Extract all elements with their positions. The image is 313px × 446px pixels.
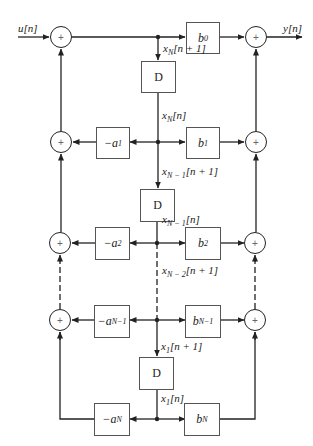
gain-b-n-1: bN−1 — [185, 305, 221, 338]
plus-icon: + — [252, 238, 258, 249]
state-label-xN-1-n: xN − 1[n] — [162, 214, 200, 228]
adder-right-0: + — [245, 26, 267, 48]
adder-left-n-1: + — [49, 309, 71, 331]
gain-minus-a-n-1: −aN−1 — [94, 305, 130, 338]
adder-right-1: + — [245, 131, 267, 153]
delay-block-1: D — [141, 61, 176, 93]
plus-icon: + — [57, 315, 63, 326]
gain-minus-a2: −a2 — [95, 227, 130, 260]
delay-block-3: D — [139, 357, 174, 390]
plus-icon: + — [252, 315, 258, 326]
state-label-xN-n: xN[n] — [162, 110, 186, 124]
adder-left-2: + — [49, 232, 71, 254]
gain-minus-a-n: −aN — [94, 403, 130, 436]
plus-icon: + — [58, 137, 64, 148]
plus-icon: + — [57, 238, 63, 249]
state-label-xN-2-n+1: xN − 2[n + 1] — [162, 265, 218, 279]
gain-b2: b2 — [185, 227, 221, 260]
plus-icon: + — [253, 137, 259, 148]
state-label-xN-n+1: xN[n + 1] — [163, 43, 206, 57]
state-label-xN-1-n+1: xN − 1[n + 1] — [162, 166, 218, 180]
plus-icon: + — [58, 32, 64, 43]
adder-right-n-1: + — [244, 309, 266, 331]
adder-right-2: + — [244, 232, 266, 254]
state-label-x1-n: x1[n] — [161, 393, 184, 407]
adder-left-0: + — [50, 26, 72, 48]
output-signal-label: y[n] — [283, 23, 302, 34]
plus-icon: + — [253, 32, 259, 43]
gain-b-n: bN — [184, 403, 220, 436]
gain-minus-a1: −a1 — [96, 127, 130, 159]
input-signal-label: u[n] — [18, 23, 38, 34]
gain-b1: b1 — [186, 127, 220, 159]
state-label-x1-n+1: x1[n + 1] — [161, 341, 202, 355]
adder-left-1: + — [50, 131, 72, 153]
